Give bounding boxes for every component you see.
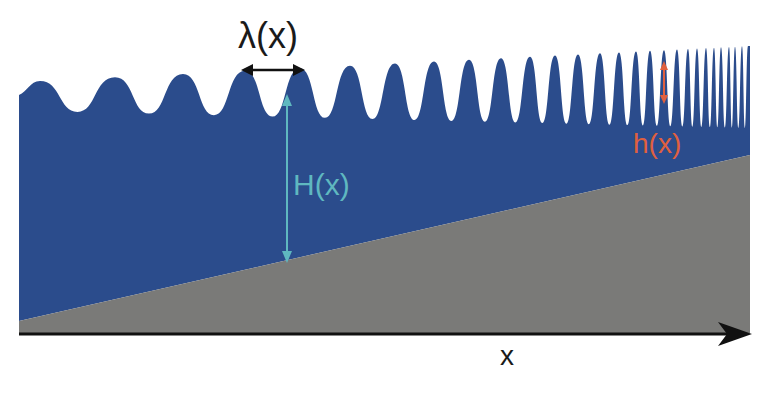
wavelength-arrow-icon — [241, 64, 305, 76]
x-axis-label: x — [500, 342, 514, 370]
depth-label: H(x) — [293, 170, 350, 200]
wavelength-label: λ(x) — [238, 18, 298, 54]
wave-diagram — [0, 0, 771, 393]
amplitude-label: h(x) — [633, 130, 681, 158]
